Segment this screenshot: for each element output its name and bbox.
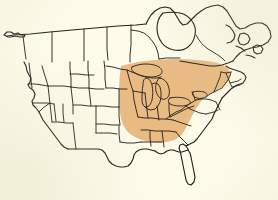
canada-province-borders (23, 25, 225, 62)
range-map-figure (0, 0, 278, 200)
canada-outline (4, 5, 271, 66)
north-america-map (0, 0, 278, 200)
atlantic-coast-detail (226, 25, 263, 58)
hudson-bay (157, 12, 195, 50)
